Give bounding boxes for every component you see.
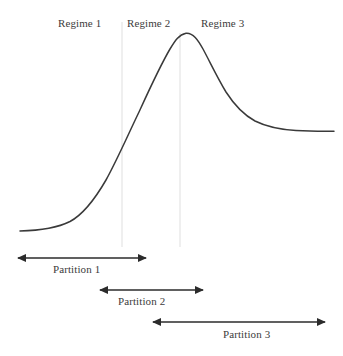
regime-label-2: Regime 2 (127, 17, 170, 29)
partition-label-3: Partition 3 (223, 328, 270, 340)
regime-dividers (122, 22, 180, 247)
partition-label-1: Partition 1 (53, 263, 100, 275)
regime-label-3: Regime 3 (201, 17, 244, 29)
partition-label-2: Partition 2 (118, 295, 165, 307)
diagram-canvas (0, 0, 343, 356)
regime-partition-diagram: Regime 1 Regime 2 Regime 3 Partition 1 P… (0, 0, 343, 356)
distribution-curve (20, 33, 334, 231)
regime-label-1: Regime 1 (58, 17, 101, 29)
curve-path (20, 33, 334, 231)
